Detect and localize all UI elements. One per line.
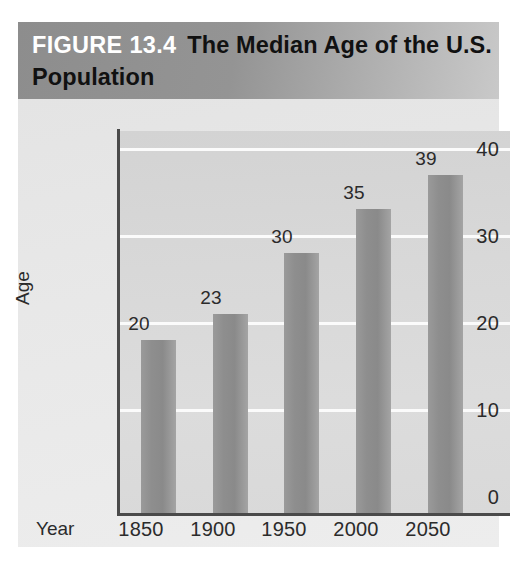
bar-value-1850: 20 — [119, 313, 159, 335]
bar-2000[interactable] — [356, 209, 391, 514]
bar-value-2000: 35 — [334, 182, 374, 204]
figure-container: FIGURE 13.4The Median Age of the U.S. Po… — [0, 0, 517, 568]
chart-panel: 20 23 30 35 39 40 30 20 10 0 1850 1900 1… — [18, 99, 499, 547]
y-tick-label-0: 0 — [411, 486, 499, 509]
x-axis-title: Year — [36, 518, 74, 540]
y-tick-label-20: 20 — [411, 312, 499, 335]
x-tick-label-1900: 1900 — [181, 518, 245, 541]
y-tick-label-40: 40 — [411, 138, 499, 161]
figure-number-label: FIGURE 13.4 — [32, 32, 176, 58]
y-axis-title: Age — [12, 271, 34, 305]
x-axis-line — [117, 513, 510, 516]
x-tick-label-1950: 1950 — [252, 518, 316, 541]
figure-title: FIGURE 13.4The Median Age of the U.S. Po… — [32, 29, 499, 93]
x-tick-label-2050: 2050 — [396, 518, 460, 541]
x-tick-label-1850: 1850 — [109, 518, 173, 541]
bar-value-1950: 30 — [262, 226, 302, 248]
y-tick-label-10: 10 — [411, 399, 499, 422]
figure-title-band: FIGURE 13.4The Median Age of the U.S. Po… — [18, 22, 499, 99]
y-tick-label-30: 30 — [411, 225, 499, 248]
bar-1950[interactable] — [284, 253, 319, 514]
x-tick-label-2000: 2000 — [324, 518, 388, 541]
bar-value-1900: 23 — [191, 287, 231, 309]
bar-1900[interactable] — [213, 314, 248, 514]
bar-1850[interactable] — [141, 340, 176, 514]
